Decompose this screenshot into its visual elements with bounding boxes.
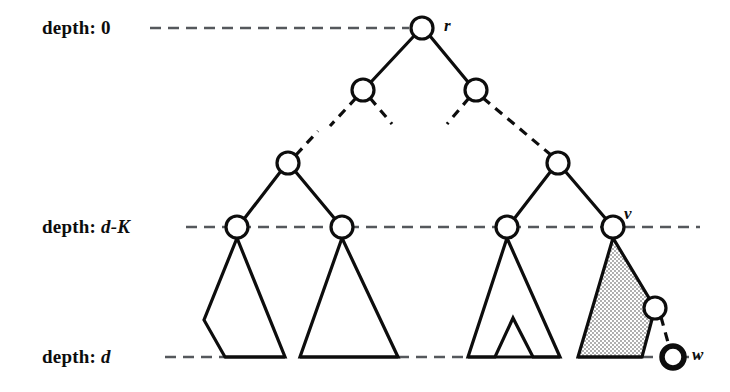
edge-level2-right-to-level3-right: [483, 98, 551, 155]
tree-depth-figure: depth:0 depth:d-K depth:d r v w: [0, 0, 730, 392]
node-level2-left[interactable]: [352, 79, 374, 101]
edge-level3-right-to-v: [565, 171, 606, 219]
node-depth-dk-2[interactable]: [331, 216, 353, 238]
edge-level3-left-to-dk1: [244, 171, 281, 219]
node-v[interactable]: [602, 216, 624, 238]
node-depth-dk-1[interactable]: [226, 216, 248, 238]
edge-level3-right-to-dk3: [514, 171, 551, 219]
edge-intermediate-to-w: [661, 317, 669, 346]
subtree-triangle-2: [300, 238, 398, 357]
node-level3-left[interactable]: [277, 152, 299, 174]
node-root[interactable]: [411, 17, 433, 39]
edge-root-to-level2-left: [371, 36, 414, 82]
node-w[interactable]: [662, 346, 684, 368]
node-depth-dk-3[interactable]: [496, 216, 518, 238]
depth-label-d-value: d: [96, 346, 111, 367]
depth-label-0-prefix: depth:: [42, 17, 96, 38]
depth-label-dk-value: d-K: [96, 216, 130, 237]
depth-label-d-prefix: depth:: [42, 346, 96, 367]
edge-level2-left-to-right-child: [370, 98, 392, 124]
tree-edges-solid: [244, 36, 606, 219]
subtree-pentagon-1: [204, 238, 285, 357]
subtree-shaded-4: [578, 238, 655, 357]
subtree-notched-3: [468, 238, 560, 357]
node-label-r: r: [444, 16, 451, 36]
subtree-shapes: [204, 238, 655, 357]
edge-level2-left-to-left-child: [330, 98, 356, 126]
node-level2-right[interactable]: [465, 79, 487, 101]
edge-level3-left-from-above: [296, 131, 318, 155]
depth-label-0: depth:0: [42, 17, 111, 39]
edge-root-to-level2-right: [430, 36, 468, 82]
edge-level3-left-to-dk2: [295, 171, 335, 219]
depth-label-0-value: 0: [96, 17, 111, 38]
edge-level2-right-to-left-child: [447, 98, 469, 124]
tree-diagram-canvas: [0, 0, 730, 392]
node-intermediate[interactable]: [644, 297, 666, 319]
node-label-v: v: [624, 204, 632, 224]
node-label-w: w: [692, 345, 703, 365]
depth-label-d: depth:d: [42, 346, 111, 368]
node-level3-right[interactable]: [547, 152, 569, 174]
depth-label-dk-prefix: depth:: [42, 216, 96, 237]
depth-label-dk: depth:d-K: [42, 216, 130, 238]
